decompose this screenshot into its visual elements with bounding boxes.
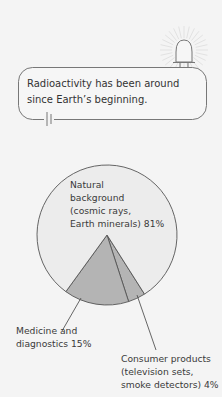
data-label-natural: Natural background (cosmic rays, Earth m… bbox=[70, 178, 180, 230]
data-label-medicine: Medicine and diagnostics 15% bbox=[16, 324, 126, 350]
glow-ray bbox=[161, 45, 173, 48]
glow-ray bbox=[161, 53, 173, 56]
label-line: (television sets, bbox=[121, 365, 222, 378]
glow-ray bbox=[196, 45, 208, 48]
data-label-consumer: Consumer products (television sets, smok… bbox=[121, 352, 222, 391]
callout-line: since Earth’s beginning. bbox=[27, 92, 202, 108]
label-line: Earth minerals) 81% bbox=[70, 217, 180, 230]
glow-ray bbox=[187, 27, 190, 39]
label-line: background bbox=[70, 191, 180, 204]
callout-text: Radioactivity has been around since Eart… bbox=[27, 76, 202, 108]
callout-line: Radioactivity has been around bbox=[27, 76, 202, 92]
glow-ray bbox=[179, 27, 182, 39]
label-line: Medicine and bbox=[16, 324, 126, 337]
label-line: diagnostics 15% bbox=[16, 337, 126, 350]
label-line: (cosmic rays, bbox=[70, 204, 180, 217]
glow-ray bbox=[196, 53, 208, 56]
leader-line-consumer bbox=[137, 295, 156, 350]
label-line: Natural bbox=[70, 178, 180, 191]
label-line: Consumer products bbox=[121, 352, 222, 365]
label-line: smoke detectors) 4% bbox=[121, 378, 222, 391]
